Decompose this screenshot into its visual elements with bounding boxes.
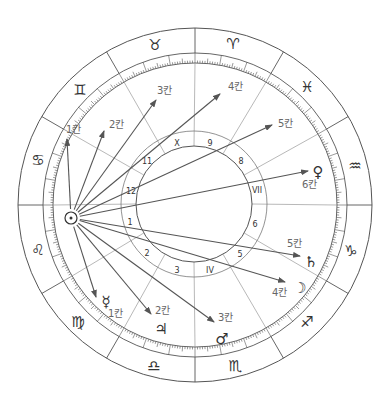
degree-tick	[100, 312, 102, 314]
degree-tick	[322, 269, 324, 270]
degree-tick	[278, 88, 279, 90]
degree-tick	[148, 339, 149, 341]
virgo-sign-icon: ♍	[71, 313, 84, 331]
degree-tick	[75, 284, 77, 285]
degree-tick	[326, 260, 328, 261]
degree-tick	[157, 63, 158, 68]
degree-tick	[268, 81, 269, 83]
degree-tick	[288, 96, 290, 98]
degree-tick	[292, 309, 294, 311]
degree-tick	[327, 151, 329, 152]
degree-tick	[111, 321, 114, 325]
house-cusp-line	[53, 204, 136, 205]
degree-tick	[335, 179, 345, 181]
degree-tick	[311, 286, 315, 289]
degree-tick	[121, 327, 122, 329]
degree-tick	[310, 288, 312, 289]
degree-tick	[118, 82, 119, 84]
house-number: 6	[252, 220, 257, 229]
degree-tick	[54, 235, 56, 236]
degree-tick	[91, 101, 95, 105]
house-number: VII	[252, 186, 262, 195]
degree-tick	[129, 76, 130, 78]
degree-tick	[162, 64, 163, 66]
degree-tick	[136, 335, 137, 337]
degree-tick	[255, 334, 257, 339]
degree-tick	[299, 302, 301, 304]
degree-tick	[305, 114, 307, 116]
degree-tick	[292, 99, 294, 101]
degree-tick	[229, 343, 230, 345]
mercury-icon: ☿	[101, 293, 110, 311]
degree-tick	[264, 79, 265, 81]
venus-icon: ♀	[313, 163, 324, 181]
degree-tick	[307, 292, 309, 294]
degree-tick	[324, 143, 329, 145]
degree-tick	[157, 342, 158, 347]
degree-tick	[143, 338, 144, 340]
moon-icon: ☽	[293, 279, 306, 297]
degree-tick	[141, 337, 142, 339]
sign-boundary-line	[271, 337, 284, 359]
degree-tick	[150, 68, 151, 70]
degree-tick	[139, 336, 140, 338]
degree-tick	[79, 296, 87, 302]
degree-tick	[125, 329, 126, 331]
sign-boundary-line	[327, 281, 349, 294]
aspect-label: 3칸	[218, 312, 233, 323]
degree-tick	[132, 333, 133, 335]
degree-tick	[253, 73, 254, 75]
house-cusp-line	[194, 262, 195, 347]
degree-tick	[232, 63, 233, 68]
house-cusp-line	[223, 82, 266, 154]
degree-tick	[319, 274, 321, 275]
house-number: 5	[237, 250, 242, 259]
degree-tick	[334, 175, 336, 176]
capricorn-sign-icon: ♑	[344, 242, 357, 260]
aspect-label: 5칸	[278, 118, 293, 129]
degree-tick	[335, 230, 345, 232]
degree-tick	[257, 333, 258, 335]
degree-tick	[220, 55, 222, 65]
jupiter-icon: ♃	[154, 320, 167, 338]
degree-tick	[270, 325, 271, 327]
degree-tick	[96, 99, 98, 101]
aspect-label: 2칸	[109, 119, 124, 130]
degree-tick	[313, 124, 315, 125]
degree-tick	[259, 76, 260, 78]
house-number: X	[174, 139, 180, 148]
degree-tick	[63, 276, 72, 281]
degree-tick	[331, 244, 333, 245]
degree-tick	[284, 315, 286, 317]
pisces-sign-icon: ♓	[300, 78, 313, 96]
arrow-2-up	[74, 131, 104, 210]
degree-tick	[54, 172, 56, 173]
degree-tick	[255, 72, 257, 77]
degree-tick	[143, 70, 144, 72]
degree-tick	[60, 256, 62, 257]
degree-tick	[148, 68, 149, 70]
degree-tick	[141, 71, 142, 73]
degree-tick	[133, 72, 135, 77]
degree-tick	[162, 343, 163, 345]
degree-tick	[333, 170, 335, 171]
degree-tick	[165, 64, 166, 66]
house-cusp-line	[124, 254, 165, 328]
libra-sign-icon: ♎	[147, 357, 160, 375]
degree-tick	[89, 302, 91, 304]
degree-tick	[310, 120, 312, 121]
degree-tick	[272, 324, 273, 326]
degree-tick	[57, 163, 59, 164]
degree-tick	[297, 105, 299, 107]
degree-tick	[89, 106, 91, 108]
degree-tick	[78, 120, 80, 121]
degree-tick	[299, 106, 301, 108]
degree-tick	[294, 307, 296, 309]
mars-icon: ♂	[215, 330, 228, 348]
degree-tick	[239, 68, 240, 70]
degree-tick	[274, 85, 275, 87]
degree-tick	[71, 278, 73, 279]
degree-tick	[78, 288, 80, 289]
degree-tick	[272, 84, 273, 86]
house-number: 8	[238, 157, 243, 166]
